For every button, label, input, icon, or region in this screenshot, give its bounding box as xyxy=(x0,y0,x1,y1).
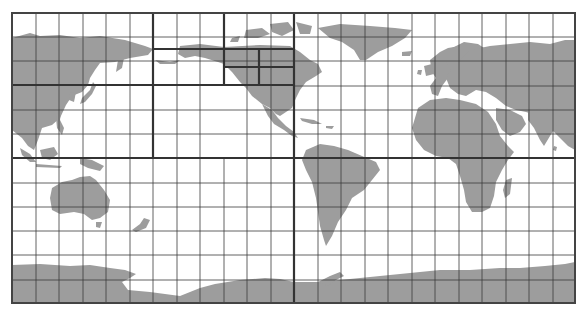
land-tasmania xyxy=(96,222,102,228)
land-new-guinea xyxy=(80,158,104,171)
land-india xyxy=(528,108,560,146)
land-korea xyxy=(69,92,76,102)
world-map xyxy=(0,0,587,319)
land-sri-lanka xyxy=(553,146,557,151)
land-iceland xyxy=(402,51,412,56)
land-caribbean xyxy=(300,118,334,129)
land-east-asia xyxy=(12,84,88,150)
land-sumatra xyxy=(20,148,36,162)
land-java xyxy=(36,164,62,168)
land-madagascar xyxy=(503,178,512,198)
shaded-cell-usa-east xyxy=(259,67,294,85)
land-siberia xyxy=(12,33,153,85)
shaded-cell-canada-west xyxy=(224,49,259,67)
land-arabia xyxy=(496,108,526,136)
land-new-zealand xyxy=(132,218,150,232)
land-british-isles xyxy=(417,64,434,76)
land-philippines xyxy=(56,110,64,135)
shaded-cell-canada-east xyxy=(259,49,294,67)
